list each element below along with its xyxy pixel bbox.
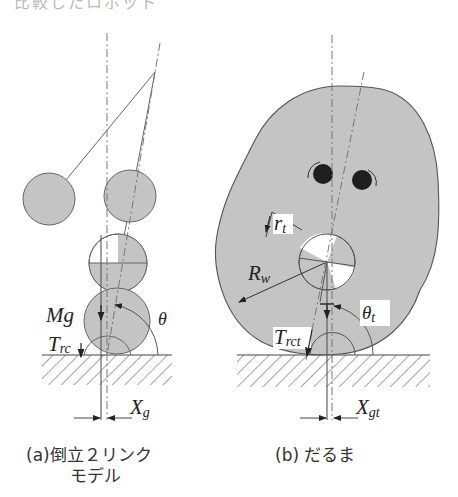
label-xg: Xg xyxy=(129,395,150,420)
figure-diagram: Mg θ Trc Xg (a)倒立２リンク モデル xyxy=(0,0,458,497)
pendulum-ball-left xyxy=(23,173,75,225)
panel-a-inverted-two-link: Mg θ Trc Xg (a)倒立２リンク モデル xyxy=(23,33,172,486)
label-mg: Mg xyxy=(45,303,74,327)
pendulum-ball-right xyxy=(104,170,156,222)
caption-a-line1: (a)倒立２リンク xyxy=(26,445,152,465)
caption-a-line2: モデル xyxy=(70,466,121,486)
caption-b: (b) だるま xyxy=(275,445,355,465)
pendulum-string-left xyxy=(66,72,155,180)
label-theta: θ xyxy=(158,309,167,329)
label-xgt: Xgt xyxy=(355,395,381,420)
label-trc: Trc xyxy=(48,332,72,356)
ground-hatch-b xyxy=(237,355,430,387)
panel-b-daruma: rt Rw θt Trct Xgt (b) だるま xyxy=(216,35,439,465)
